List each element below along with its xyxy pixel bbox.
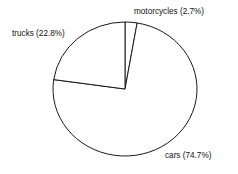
pie-label-trucks: trucks (22.8%) [12, 29, 65, 38]
pie-slices-group [53, 22, 197, 156]
pie-label-cars: cars (74.7%) [165, 151, 212, 160]
pie-chart-canvas: motorcycles (2.7%)trucks (22.8%)cars (74… [0, 0, 238, 174]
pie-label-motorcycles: motorcycles (2.7%) [134, 7, 204, 16]
pie-chart-figure: motorcycles (2.7%)trucks (22.8%)cars (74… [0, 0, 238, 174]
